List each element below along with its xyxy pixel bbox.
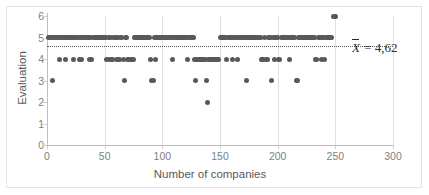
data-point: [322, 57, 327, 62]
data-point: [265, 57, 270, 62]
data-point: [185, 57, 190, 62]
x-axis-tick-label: 100: [142, 150, 182, 162]
data-point: [287, 57, 292, 62]
data-point: [57, 57, 62, 62]
y-axis-tick-label: 3: [22, 75, 44, 87]
data-point: [295, 78, 300, 83]
data-point: [71, 57, 76, 62]
plot-area: [47, 16, 393, 145]
data-point: [122, 78, 127, 83]
data-point: [170, 57, 175, 62]
data-point: [329, 35, 334, 40]
data-point: [216, 57, 221, 62]
y-axis-tick: [42, 124, 47, 125]
mean-value: 4,62: [375, 40, 398, 55]
y-axis-tick: [42, 145, 47, 146]
y-axis-tick-labels: 0123456: [20, 16, 44, 145]
data-point: [205, 100, 210, 105]
y-axis-tick: [42, 81, 47, 82]
plot-surface: [47, 16, 393, 145]
x-axis-tick-labels: 050100150200250300: [47, 145, 393, 163]
gridline-vertical: [335, 16, 336, 145]
x-axis-tick-label: 200: [258, 150, 298, 162]
data-point: [277, 57, 282, 62]
x-axis-tick-label: 0: [27, 150, 67, 162]
data-point: [191, 35, 196, 40]
x-axis-title: Number of companies: [45, 168, 375, 180]
data-point: [89, 57, 94, 62]
data-point: [224, 57, 229, 62]
data-point: [124, 35, 129, 40]
data-point: [79, 57, 84, 62]
data-point: [193, 78, 198, 83]
data-point: [151, 78, 156, 83]
x-axis-line: [47, 145, 393, 146]
x-axis-tick: [393, 145, 394, 149]
mean-value-annotation: X = 4,62: [352, 40, 398, 56]
y-axis-line: [47, 13, 48, 145]
data-point: [269, 78, 274, 83]
x-axis-tick-label: 300: [373, 150, 413, 162]
data-point: [153, 57, 158, 62]
y-axis-tick-label: 4: [22, 53, 44, 65]
data-point: [244, 78, 249, 83]
gridline-vertical: [393, 16, 394, 145]
mean-symbol: X: [352, 40, 361, 55]
data-point: [235, 57, 240, 62]
mean-line: [47, 46, 393, 47]
y-axis-tick-label: 5: [22, 32, 44, 44]
mean-equals: =: [364, 40, 371, 55]
data-point: [333, 14, 338, 19]
x-axis-tick-label: 50: [85, 150, 125, 162]
data-point: [204, 78, 209, 83]
y-axis-tick-label: 6: [22, 10, 44, 22]
data-point: [50, 78, 55, 83]
y-axis-tick: [42, 16, 47, 17]
data-point: [63, 57, 68, 62]
data-point: [131, 57, 136, 62]
y-axis-tick: [42, 102, 47, 103]
scatter-chart: Evaluation Number of companies 0123456 0…: [0, 0, 429, 195]
y-axis-tick-label: 2: [22, 96, 44, 108]
y-axis-tick: [42, 59, 47, 60]
y-axis-tick-label: 1: [22, 118, 44, 130]
x-axis-tick-label: 250: [315, 150, 355, 162]
x-axis-tick-label: 150: [200, 150, 240, 162]
